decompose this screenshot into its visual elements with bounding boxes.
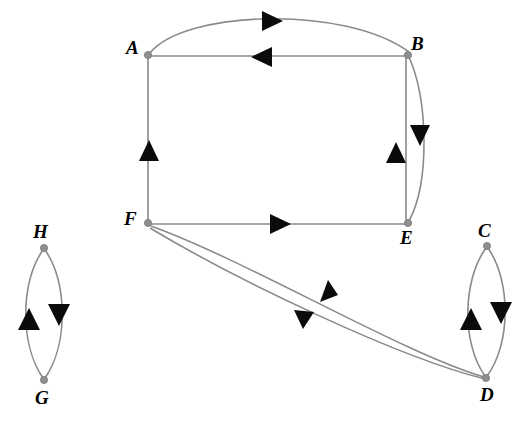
node-dot-h[interactable]	[40, 244, 47, 251]
node-label-b: B	[411, 34, 424, 53]
arrowhead-d-to-f	[320, 280, 338, 302]
arrowhead-c-to-d	[490, 302, 512, 324]
node-dot-f[interactable]	[144, 219, 151, 226]
node-label-f: F	[124, 209, 137, 228]
node-dot-d[interactable]	[482, 374, 489, 381]
arrowhead-layer	[18, 11, 512, 330]
node-dot-c[interactable]	[483, 242, 490, 249]
node-layer	[40, 51, 490, 383]
arrowhead-b-to-e	[410, 125, 430, 146]
diagram-canvas: A B C D E F G H	[0, 0, 526, 421]
edge-a-to-b	[150, 19, 409, 53]
node-label-c: C	[478, 221, 491, 240]
node-label-a: A	[126, 38, 139, 57]
node-label-g: G	[35, 388, 49, 407]
edge-layer	[26, 19, 505, 379]
arrowhead-h-to-g	[48, 304, 70, 326]
node-dot-a[interactable]	[144, 51, 151, 58]
node-label-h: H	[33, 222, 48, 241]
node-dot-e[interactable]	[404, 219, 411, 226]
arrowhead-g-to-h	[18, 308, 40, 330]
arrowhead-f-to-e	[270, 214, 291, 234]
arrowhead-e-to-b	[386, 142, 406, 163]
arrowhead-a-to-b	[262, 11, 283, 31]
node-label-d: D	[480, 385, 494, 404]
arrowhead-f-to-d	[294, 310, 314, 329]
arrowhead-f-to-a	[139, 140, 159, 161]
arrowhead-b-to-a	[251, 47, 272, 67]
arrowhead-d-to-c	[460, 308, 482, 330]
node-label-e: E	[400, 228, 413, 247]
directed-graph-figure	[0, 0, 526, 421]
edge-d-to-f	[151, 226, 484, 377]
node-dot-g[interactable]	[40, 376, 47, 383]
